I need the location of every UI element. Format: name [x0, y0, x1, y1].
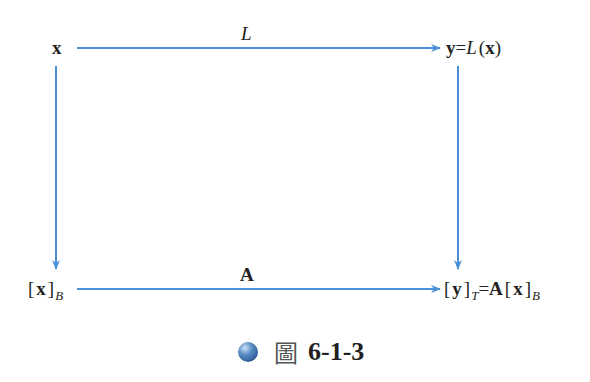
node-y-equals-Lx: y=L(x) — [446, 38, 501, 57]
equals: = — [456, 37, 467, 58]
y-var: y — [452, 278, 462, 299]
subscript-T: T — [471, 288, 478, 303]
paren-close: ) — [495, 37, 501, 58]
figure-caption: 圖 6-1-3 — [238, 334, 364, 369]
x-var: x — [36, 278, 46, 299]
subscript-B: B — [55, 288, 63, 303]
subscript-B: B — [532, 288, 540, 303]
L-func: L — [466, 37, 477, 58]
bracket-open: [ — [505, 278, 511, 299]
bracket-close: ] — [464, 278, 470, 299]
y-var: y — [446, 37, 456, 58]
node-x-coord-B: [x]B — [28, 279, 63, 298]
figure-prefix: 圖 — [274, 334, 298, 369]
node-y-coord-T-equals-A-x-coord-B: [y]T=A[x]B — [444, 279, 540, 298]
bracket-open: [ — [28, 278, 34, 299]
edge-label-L: L — [241, 24, 252, 43]
bracket-close: ] — [48, 278, 54, 299]
node-x: x — [52, 38, 62, 57]
x-var: x — [485, 37, 495, 58]
figure-number: 6-1-3 — [308, 337, 364, 367]
A-matrix: A — [489, 278, 503, 299]
equals: = — [478, 278, 489, 299]
diagram-arrows — [0, 0, 590, 382]
bullet-sphere-icon — [238, 342, 258, 362]
edge-label-A: A — [240, 265, 254, 284]
x-var: x — [513, 278, 523, 299]
bracket-open: [ — [444, 278, 450, 299]
bracket-close: ] — [525, 278, 531, 299]
